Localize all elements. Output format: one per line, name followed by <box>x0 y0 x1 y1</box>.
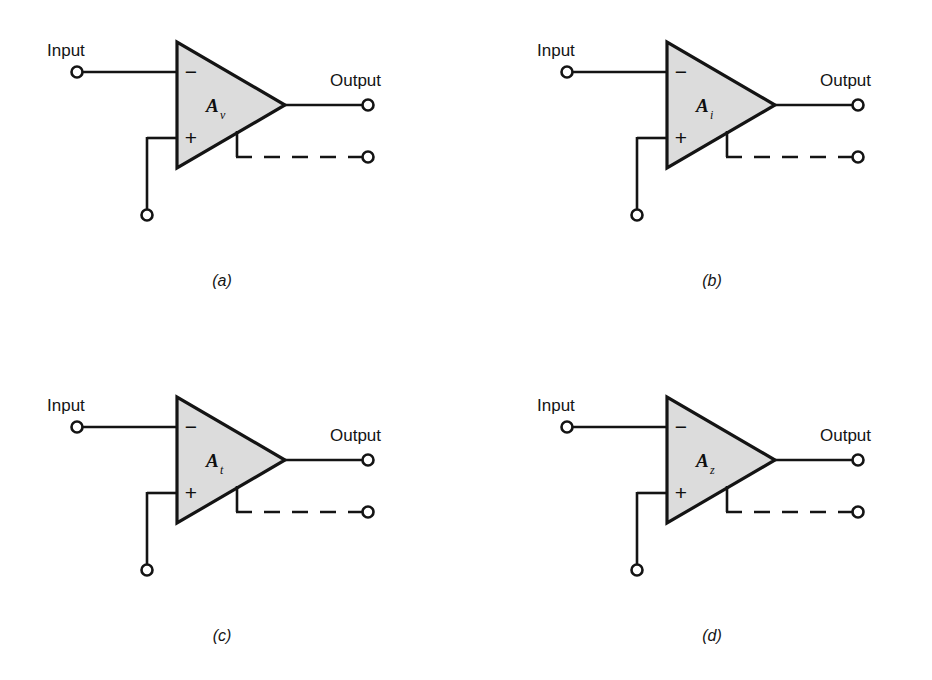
input-terminal-b[interactable] <box>562 67 573 78</box>
panel-caption-a: (a) <box>212 272 232 289</box>
panel-a: Input − + A v Output (a) <box>47 41 381 289</box>
gain-symbol-a: A <box>205 95 219 116</box>
output-label-d: Output <box>820 426 871 445</box>
output-terminal-d[interactable] <box>853 455 864 466</box>
input-label-b: Input <box>537 41 575 60</box>
input-label-a: Input <box>47 41 85 60</box>
panel-caption-c: (c) <box>213 627 232 644</box>
output-label-b: Output <box>820 71 871 90</box>
gain-subscript-a: v <box>220 108 226 122</box>
common-terminal-d[interactable] <box>632 565 643 576</box>
noninverting-input-sign-c: + <box>185 481 197 504</box>
output-terminal-a[interactable] <box>363 100 374 111</box>
inverting-input-sign-a: − <box>185 60 197 83</box>
noninverting-input-sign-a: + <box>185 126 197 149</box>
output-common-terminal-c[interactable] <box>363 507 374 518</box>
panel-caption-b: (b) <box>702 272 722 289</box>
gain-symbol-d: A <box>695 450 709 471</box>
input-terminal-d[interactable] <box>562 422 573 433</box>
gain-subscript-d: z <box>709 463 715 477</box>
amplifier-figure: Input − + A v Output (a) Input − + A i O… <box>0 0 932 680</box>
gain-subscript-b: i <box>710 108 713 122</box>
input-terminal-a[interactable] <box>72 67 83 78</box>
input-terminal-c[interactable] <box>72 422 83 433</box>
inverting-input-sign-d: − <box>675 415 687 438</box>
noninverting-input-sign-d: + <box>675 481 687 504</box>
panel-b: Input − + A i Output (b) <box>537 41 871 289</box>
common-terminal-a[interactable] <box>142 210 153 221</box>
output-terminal-b[interactable] <box>853 100 864 111</box>
output-label-a: Output <box>330 71 381 90</box>
output-common-terminal-a[interactable] <box>363 152 374 163</box>
input-label-c: Input <box>47 396 85 415</box>
output-common-terminal-d[interactable] <box>853 507 864 518</box>
gain-symbol-c: A <box>205 450 219 471</box>
output-label-c: Output <box>330 426 381 445</box>
gain-symbol-b: A <box>695 95 709 116</box>
noninverting-input-sign-b: + <box>675 126 687 149</box>
input-label-d: Input <box>537 396 575 415</box>
panel-d: Input − + A z Output (d) <box>537 396 871 644</box>
panel-c: Input − + A t Output (c) <box>47 396 381 644</box>
output-terminal-c[interactable] <box>363 455 374 466</box>
inverting-input-sign-c: − <box>185 415 197 438</box>
panel-caption-d: (d) <box>702 627 722 644</box>
common-terminal-b[interactable] <box>632 210 643 221</box>
common-terminal-c[interactable] <box>142 565 153 576</box>
output-common-terminal-b[interactable] <box>853 152 864 163</box>
inverting-input-sign-b: − <box>675 60 687 83</box>
